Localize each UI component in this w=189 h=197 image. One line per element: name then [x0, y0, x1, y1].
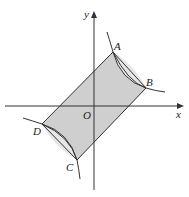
y-axis-arrow-icon	[91, 11, 97, 18]
point-a-label: A	[113, 40, 121, 52]
point-d-label: D	[32, 125, 41, 137]
y-axis-label: y	[83, 8, 89, 20]
origin-label: O	[83, 109, 91, 121]
coordinate-diagram: y x O A B C D	[0, 0, 189, 197]
point-b-label: B	[146, 76, 153, 88]
x-axis-label: x	[175, 108, 181, 120]
point-c-label: C	[66, 161, 74, 173]
